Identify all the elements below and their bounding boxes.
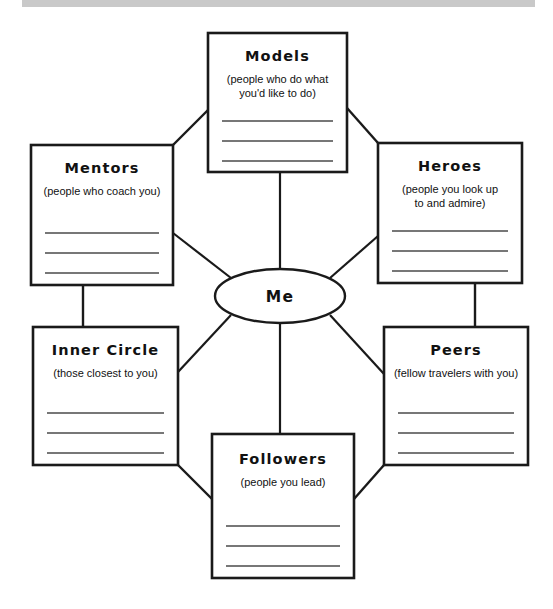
- node-description-inner-circle: (those closest to you): [53, 367, 158, 379]
- connector-peers-to-followers: [354, 465, 384, 499]
- spoke-hub-to-inner-circle: [178, 315, 231, 372]
- node-title-models: Models: [245, 48, 310, 64]
- node-mentors[interactable]: Mentors(people who coach you): [31, 145, 173, 285]
- node-description-followers: (people you lead): [240, 476, 325, 488]
- node-heroes[interactable]: Heroes(people you look upto and admire): [378, 143, 522, 283]
- relationship-network-diagram: Models(people who do whatyou'd like to d…: [0, 0, 553, 609]
- connector-mentors-to-models: [173, 110, 208, 145]
- spoke-hub-to-peers: [330, 315, 384, 374]
- node-description-heroes: to and admire): [415, 197, 486, 209]
- node-title-heroes: Heroes: [418, 158, 482, 174]
- node-followers[interactable]: Followers(people you lead): [212, 434, 354, 578]
- node-title-inner-circle: Inner Circle: [52, 342, 159, 358]
- node-title-mentors: Mentors: [65, 160, 140, 176]
- node-title-followers: Followers: [239, 451, 327, 467]
- me-label: Me: [266, 288, 294, 306]
- node-description-models: you'd like to do): [239, 87, 316, 99]
- spoke-hub-to-heroes: [330, 236, 378, 278]
- connector-models-to-heroes: [347, 108, 378, 143]
- hub-group[interactable]: Me: [215, 269, 345, 323]
- node-models[interactable]: Models(people who do whatyou'd like to d…: [208, 33, 347, 172]
- connector-inner-circle-to-followers: [178, 465, 212, 499]
- node-description-models: (people who do what: [227, 73, 329, 85]
- node-title-peers: Peers: [430, 342, 482, 358]
- spoke-hub-to-mentors: [173, 233, 231, 278]
- node-inner-circle[interactable]: Inner Circle(those closest to you): [33, 327, 178, 465]
- worksheet-page: Models(people who do whatyou'd like to d…: [0, 0, 553, 609]
- node-peers[interactable]: Peers(fellow travelers with you): [384, 327, 528, 465]
- node-description-heroes: (people you look up: [402, 183, 498, 195]
- node-description-mentors: (people who coach you): [44, 185, 161, 197]
- node-description-peers: (fellow travelers with you): [394, 367, 518, 379]
